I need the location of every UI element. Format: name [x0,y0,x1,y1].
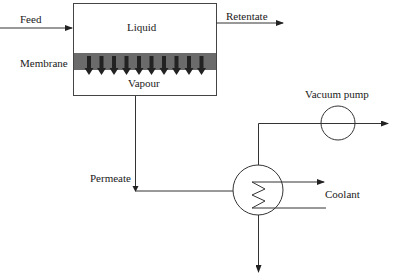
membrane-layer [74,53,216,70]
vapour-label: Vapour [128,78,160,89]
feed-label: Feed [20,14,41,25]
vacuum-pump-label: Vacuum pump [305,89,369,100]
retentate-label: Retentate [226,11,268,22]
coolant-label: Coolant [325,189,360,200]
process-diagram [0,0,399,280]
liquid-label: Liquid [127,22,156,33]
permeate-label: Permeate [90,173,131,184]
membrane-label: Membrane [20,58,68,69]
permeate-line [136,96,234,191]
vapour-to-pump-line [259,124,389,166]
